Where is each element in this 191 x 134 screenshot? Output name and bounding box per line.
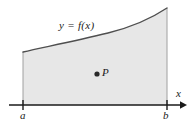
x-axis-arrow-icon [180, 101, 187, 109]
tick-label-b: b [163, 110, 169, 121]
x-axis-label: x [176, 88, 181, 99]
area-under-curve-figure: y = f(x) P x a b [0, 0, 191, 134]
point-p-label: P [102, 67, 109, 78]
tick-label-a: a [20, 110, 26, 121]
shaded-region [23, 8, 167, 105]
point-p-dot [94, 71, 99, 76]
curve-equation-label: y = f(x) [59, 20, 94, 31]
